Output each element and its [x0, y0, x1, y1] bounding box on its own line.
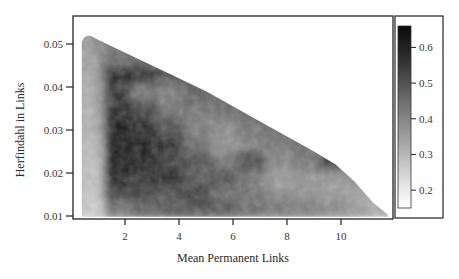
colorbar-tick-label: 0.3 — [419, 148, 433, 160]
colorbar: 0.20.30.40.50.6 — [395, 16, 443, 218]
x-tick-label: 2 — [122, 230, 128, 242]
colorbar-tick-label: 0.5 — [419, 77, 433, 89]
y-tick-label: 0.02 — [44, 167, 63, 179]
y-tick-label: 0.03 — [44, 124, 64, 136]
heatmap-area — [73, 16, 397, 219]
y-axis: 0.010.020.030.040.05 — [44, 38, 73, 222]
x-tick-label: 6 — [230, 230, 236, 242]
x-tick-label: 4 — [176, 230, 182, 242]
heatmap-chart: 246810 0.010.020.030.040.05 Mean Permane… — [0, 0, 459, 279]
colorbar-tick-label: 0.4 — [419, 113, 433, 125]
y-axis-label: Herfindahl in Links — [13, 82, 27, 177]
colorbar-bar — [398, 26, 411, 208]
y-tick-label: 0.05 — [44, 38, 64, 50]
heatmap-texture — [73, 16, 393, 219]
y-tick-label: 0.01 — [44, 210, 63, 222]
x-axis-label: Mean Permanent Links — [177, 251, 289, 265]
x-axis: 246810 — [122, 219, 347, 242]
x-tick-label: 10 — [336, 230, 348, 242]
colorbar-ticks: 0.20.30.40.50.6 — [411, 41, 433, 196]
x-tick-label: 8 — [284, 230, 290, 242]
y-tick-label: 0.04 — [44, 81, 64, 93]
colorbar-tick-label: 0.6 — [419, 41, 433, 53]
colorbar-tick-label: 0.2 — [419, 184, 433, 196]
